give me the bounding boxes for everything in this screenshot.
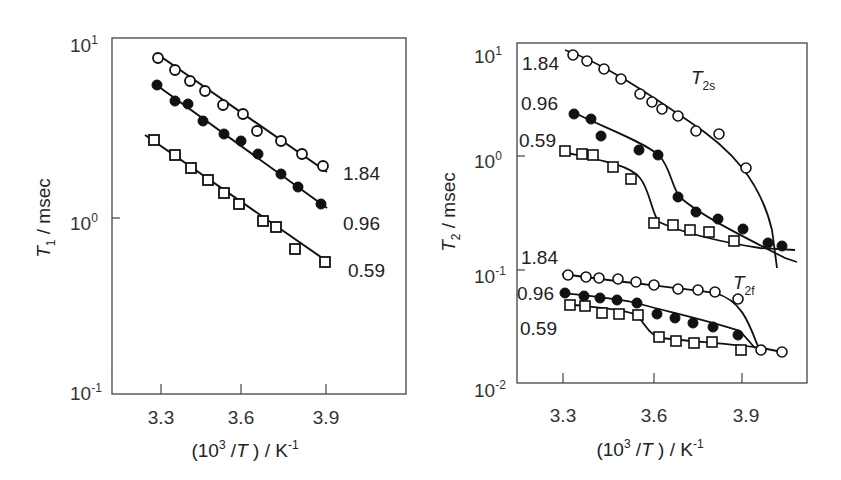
right-x-axis-title: (103 /T ) / K-1 — [596, 437, 703, 460]
right-ytick-0.01: 10-2 — [474, 378, 506, 401]
right-ytick-10: 101 — [474, 44, 502, 67]
left-ytick-0.1: 10-1 — [70, 381, 102, 404]
t2f-label-0.59: 0.59 — [520, 318, 557, 339]
t2s-label-0.59: 0.59 — [519, 130, 556, 151]
left-chart: 101 100 10-1 3.3 3.6 3.9 T1 / msec (103 … — [33, 33, 406, 461]
right-xtick-3.9: 3.9 — [733, 405, 759, 426]
left-xtick-3.3: 3.3 — [148, 407, 174, 428]
left-x-axis-title: (103 /T ) / K-1 — [191, 438, 298, 461]
t2f-label-1.84: 1.84 — [521, 247, 558, 268]
left-label-0.59: 0.59 — [348, 260, 385, 281]
right-chart: 101 100 10-1 10-2 3.3 3.6 3.9 T2 / msec … — [438, 43, 807, 460]
right-ytick-0.1: 10-1 — [474, 264, 506, 287]
series-0.96-markers — [152, 80, 326, 209]
t2s-label-1.84: 1.84 — [522, 53, 559, 74]
left-xtick-3.9: 3.9 — [313, 407, 339, 428]
right-y-axis-title: T2 / msec — [438, 172, 463, 252]
left-label-1.84: 1.84 — [343, 163, 380, 184]
t2f-label-0.96: 0.96 — [517, 283, 554, 304]
t2s-label-0.96: 0.96 — [521, 93, 558, 114]
t2s-annotation: T2s — [691, 67, 715, 93]
left-y-axis-title: T1 / msec — [33, 178, 58, 258]
curve-t2s-0.96 — [573, 112, 797, 262]
right-xtick-3.3: 3.3 — [550, 405, 576, 426]
figure: 101 100 10-1 3.3 3.6 3.9 T1 / msec (103 … — [0, 0, 841, 480]
left-label-0.96: 0.96 — [343, 213, 380, 234]
left-ytick-10: 101 — [70, 33, 98, 56]
left-xtick-3.6: 3.6 — [228, 407, 254, 428]
right-xtick-3.6: 3.6 — [641, 405, 667, 426]
right-ytick-1: 100 — [474, 149, 502, 172]
left-ytick-1: 100 — [70, 211, 98, 234]
